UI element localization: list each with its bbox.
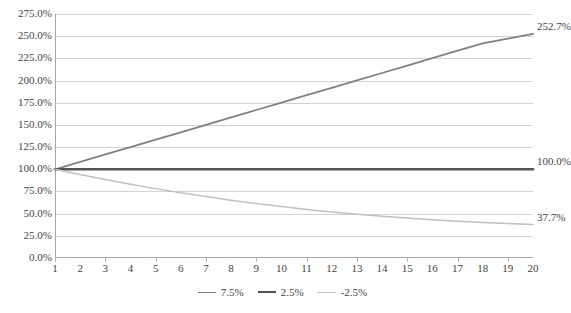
- x-axis-tick-label: 20: [520, 262, 546, 275]
- y-axis-tick-label: 150.0%: [0, 119, 52, 130]
- legend-swatch: [318, 292, 336, 293]
- x-axis-tick-label: 19: [495, 262, 521, 275]
- plot-area: [55, 14, 533, 258]
- x-axis-tick-label: 7: [193, 262, 219, 275]
- x-axis-tick-label: 4: [117, 262, 143, 275]
- y-axis-tick-label: 250.0%: [0, 30, 52, 41]
- legend-item[interactable]: 2.5%: [258, 286, 304, 298]
- x-axis-tick-label: 16: [419, 262, 445, 275]
- y-axis-tick-label: 100.0%: [0, 163, 52, 174]
- series-end-data-label: 37.7%: [537, 211, 565, 223]
- y-axis-tick-label: 25.0%: [0, 230, 52, 241]
- x-axis-tick-label: 17: [445, 262, 471, 275]
- gridline: [55, 258, 533, 259]
- legend-label: 2.5%: [281, 286, 304, 298]
- x-axis-tick-label: 11: [294, 262, 320, 275]
- legend-label: -2.5%: [341, 286, 368, 298]
- chart-legend: 7.5%2.5%-2.5%: [0, 283, 565, 301]
- y-axis-tick-label: 275.0%: [0, 8, 52, 19]
- x-axis-tick-label: 15: [394, 262, 420, 275]
- series-lines: [55, 14, 533, 258]
- y-axis-tick-label: 50.0%: [0, 208, 52, 219]
- y-axis-tick-label: 225.0%: [0, 52, 52, 63]
- legend-swatch: [258, 291, 276, 293]
- x-axis-tick-label: 8: [218, 262, 244, 275]
- x-axis-tick-label: 13: [344, 262, 370, 275]
- x-axis-tick-label: 5: [143, 262, 169, 275]
- x-axis-tick-label: 2: [67, 262, 93, 275]
- y-axis-tick-label: 75.0%: [0, 185, 52, 196]
- series-line: [55, 34, 533, 169]
- legend-item[interactable]: -2.5%: [318, 286, 368, 298]
- legend-label: 7.5%: [221, 286, 244, 298]
- y-axis-labels: 275.0%250.0%225.0%200.0%175.0%150.0%125.…: [0, 14, 52, 258]
- legend-item[interactable]: 7.5%: [198, 286, 244, 298]
- series-end-data-label: 100.0%: [537, 155, 571, 167]
- legend-swatch: [198, 292, 216, 293]
- x-axis-tick-label: 9: [243, 262, 269, 275]
- x-axis-tick-label: 6: [168, 262, 194, 275]
- x-axis-tick-label: 10: [268, 262, 294, 275]
- x-axis-tick-label: 14: [369, 262, 395, 275]
- x-axis-tick-label: 3: [92, 262, 118, 275]
- y-axis-tick-label: 125.0%: [0, 141, 52, 152]
- x-axis-tick-label: 1: [42, 262, 68, 275]
- y-axis-tick-label: 175.0%: [0, 97, 52, 108]
- series-line: [55, 169, 533, 224]
- series-end-data-label: 252.7%: [537, 20, 571, 32]
- y-axis-tick-label: 200.0%: [0, 75, 52, 86]
- x-axis-tick-label: 18: [470, 262, 496, 275]
- x-axis-tick-label: 12: [319, 262, 345, 275]
- x-axis-labels: 1234567891011121314151617181920: [55, 262, 533, 278]
